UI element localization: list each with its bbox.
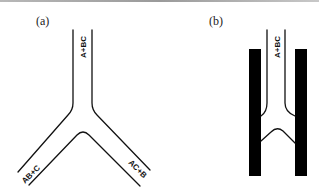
- channel-wall-right-outer: [92, 30, 150, 170]
- y-channel-diagram: A+BC AB+C AC+B: [0, 0, 160, 192]
- channel-wall-left-outer: [18, 30, 73, 172]
- left-black-bar: [249, 49, 261, 176]
- right-black-bar: [295, 49, 307, 176]
- panel-a: (a) A+BC AB+C AC+B: [0, 0, 160, 192]
- panel-b: (b) A+BC: [160, 0, 319, 192]
- channel-label-top: A+BC: [79, 36, 88, 58]
- channel-inner-hump: [261, 129, 295, 143]
- channel-label-lower-right: AC+B: [127, 158, 149, 180]
- constrained-channel-diagram: A+BC: [160, 0, 319, 192]
- channel-wall-right: [285, 30, 295, 116]
- channel-wall-left: [261, 30, 267, 116]
- channel-label-top-b: A+BC: [273, 36, 282, 58]
